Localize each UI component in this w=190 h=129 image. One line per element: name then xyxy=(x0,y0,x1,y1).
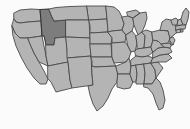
state-north-dakota[interactable] xyxy=(87,6,107,20)
state-new-mexico[interactable] xyxy=(67,56,93,88)
state-south-dakota[interactable] xyxy=(89,19,108,33)
state-minnesota[interactable] xyxy=(106,6,124,32)
state-montana[interactable] xyxy=(49,6,89,21)
state-texas[interactable] xyxy=(88,66,118,111)
state-kansas[interactable] xyxy=(90,44,112,57)
state-kentucky[interactable] xyxy=(135,47,153,57)
state-colorado[interactable] xyxy=(66,37,91,58)
us-states-map[interactable]: United States state locator map xyxy=(0,0,190,129)
state-alabama[interactable] xyxy=(136,64,145,84)
state-wyoming[interactable] xyxy=(66,20,90,38)
us-locator-map-figure: United States state locator map xyxy=(0,0,190,129)
state-maine[interactable] xyxy=(181,8,189,25)
state-massachusetts[interactable] xyxy=(176,25,186,30)
